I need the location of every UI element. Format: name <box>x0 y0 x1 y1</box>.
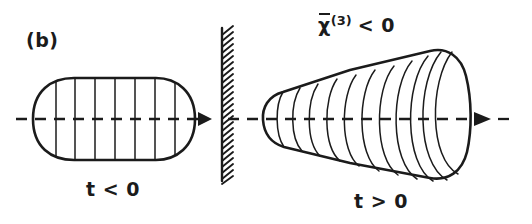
propagation-axis <box>16 112 514 126</box>
defocused-pulse-cone <box>263 50 471 181</box>
cone-rib-11 <box>435 52 458 174</box>
chi-relation: < 0 <box>358 14 395 36</box>
cone-rib-1 <box>277 92 284 147</box>
label-time-before: t < 0 <box>86 178 140 200</box>
chi-glyph: χ <box>318 14 331 36</box>
panel-label: (b) <box>26 29 58 51</box>
axis-arrowhead-mid <box>198 112 212 126</box>
cone-outline <box>263 50 471 178</box>
chi-symbol: χ <box>318 12 331 36</box>
nonlinear-medium-interface <box>222 26 233 184</box>
cone-rib-5 <box>344 75 359 166</box>
label-susceptibility: χ(3)< 0 <box>318 12 395 36</box>
label-time-after: t > 0 <box>354 190 408 212</box>
axis-arrowhead-right <box>474 112 491 126</box>
chi-superscript: (3) <box>331 13 352 28</box>
barrier-hatching <box>222 26 233 184</box>
chi-overbar <box>319 13 330 15</box>
figure-panel-b: (b) t < 0 t > 0 χ(3)< 0 <box>0 0 532 224</box>
cone-rib-6 <box>362 70 379 171</box>
cone-rib-7 <box>379 66 398 175</box>
figure-drawing <box>0 0 532 224</box>
